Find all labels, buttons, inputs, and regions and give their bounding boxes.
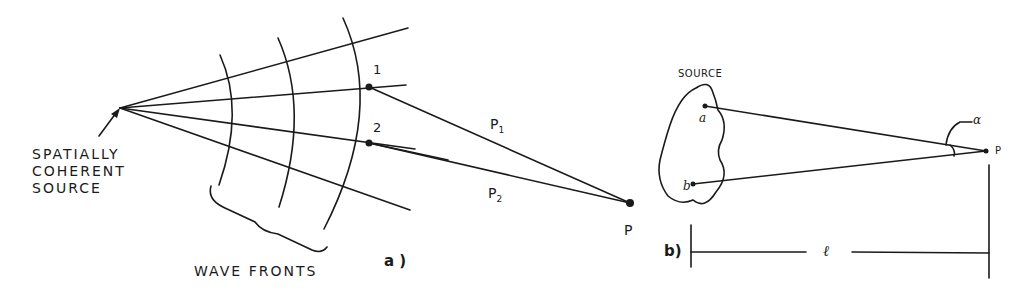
panel-a-label: a ) [384, 254, 406, 269]
distance-label: ℓ [823, 244, 829, 259]
source-point-a-label: a [699, 112, 706, 124]
rays [120, 28, 415, 210]
point-1-label: 1 [373, 63, 381, 76]
panel-b-label: b) [664, 244, 682, 259]
observation-point-b-label: P [995, 146, 1002, 156]
diagram-drawing [0, 0, 1020, 290]
point-2-label: 2 [373, 121, 381, 134]
observation-point-dot [626, 199, 634, 207]
path-p2-label: P2 [488, 186, 502, 200]
source-label: SPATIALLY COHERENT SOURCE [32, 146, 126, 197]
wave-fronts [219, 18, 360, 229]
point-2-dot [366, 140, 373, 147]
path-p1-label: P1 [490, 117, 504, 131]
source-arrow [99, 113, 116, 136]
point-1-dot [366, 84, 373, 91]
source-point-b-label: b [683, 180, 691, 192]
angle-alpha-label: α [973, 114, 981, 126]
coherence-diagram: SPATIALLY COHERENT SOURCE WAVE FRONTS 1 … [0, 0, 1020, 290]
wave-fronts-label: WAVE FRONTS [194, 264, 317, 278]
source-b-label: SOURCE [678, 69, 722, 79]
source-point-b-dot [691, 182, 696, 187]
observation-point-b-dot [984, 149, 989, 154]
arrowhead-icon [111, 108, 120, 118]
wave-front-brace [210, 186, 327, 251]
observation-point-label: P [624, 223, 632, 237]
source-point-a-dot [703, 104, 708, 109]
